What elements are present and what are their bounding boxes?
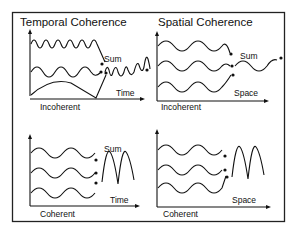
x-axis-arrow-icon — [135, 204, 140, 208]
wave-2 — [158, 165, 222, 175]
wave-2 — [31, 168, 95, 178]
wave-end-dot — [145, 68, 148, 71]
wave-end-dot — [279, 56, 282, 59]
y-axis-arrow-icon — [155, 129, 159, 134]
panel-title-spatial: Spatial Coherence — [158, 17, 253, 29]
wave-1 — [158, 145, 222, 155]
wave-3 — [158, 75, 231, 92]
y-axis-arrow-icon — [155, 31, 159, 36]
wave-2 — [158, 61, 230, 71]
caption-coherent: Coherent — [40, 210, 75, 219]
wave-1 — [158, 41, 230, 53]
wave-end-dot — [94, 181, 97, 184]
wave-end-dot — [94, 158, 97, 161]
wave-end-dot — [231, 73, 234, 76]
x-axis-label-space: Space — [234, 89, 258, 98]
sum-label: Sum — [104, 55, 121, 64]
wave-1 — [31, 148, 95, 158]
wave-high-frequency — [31, 40, 105, 62]
caption-incoherent: Incoherent — [40, 103, 80, 112]
sum-wave-amplified — [232, 146, 264, 179]
x-axis-label-space: Space — [232, 196, 256, 205]
wave-end-dot — [223, 168, 226, 171]
x-axis-label-time: Time — [116, 89, 135, 98]
sum-wave — [235, 60, 277, 71]
wave-mid-frequency — [31, 67, 100, 77]
panel-spatial-incoherent — [155, 31, 283, 103]
caption-incoherent: Incoherent — [161, 103, 201, 112]
caption-coherent: Coherent — [163, 210, 198, 219]
wave-3 — [158, 176, 226, 193]
wave-end-dot — [94, 171, 97, 174]
wave-end-dot — [229, 52, 232, 55]
x-axis-arrow-icon — [140, 97, 145, 101]
sum-label: Sum — [104, 145, 121, 154]
x-axis-arrow-icon — [266, 205, 271, 209]
wave-3 — [31, 188, 95, 198]
wave-end-dot — [225, 175, 228, 178]
sum-label: Sum — [240, 52, 257, 61]
wave-end-dot — [223, 154, 226, 157]
y-axis-arrow-icon — [28, 29, 32, 34]
wave-low-frequency — [31, 75, 106, 98]
x-axis-label-time: Time — [110, 196, 129, 205]
wave-end-dot — [99, 70, 102, 73]
panel-title-temporal: Temporal Coherence — [20, 17, 127, 29]
y-axis-arrow-icon — [28, 134, 32, 139]
wave-end-dot — [230, 64, 233, 67]
sum-wave-amplified — [102, 151, 134, 184]
x-axis-arrow-icon — [264, 99, 269, 103]
figure-border — [13, 13, 285, 222]
